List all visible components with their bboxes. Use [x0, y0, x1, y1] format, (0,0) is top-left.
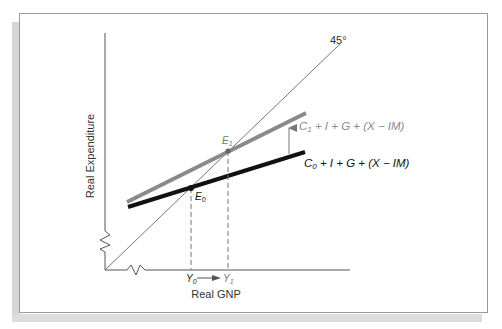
keynesian-cross-diagram: 45° C1 + I + G + (X − IM) C0 + I + G + (…	[0, 0, 502, 329]
curve-c0-label: C0 + I + G + (X − IM)	[304, 157, 410, 171]
x-axis-label: Real GNP	[191, 288, 241, 300]
y0-label: Y0	[186, 273, 197, 285]
e0-label: E0	[195, 191, 206, 203]
curve-c1-line	[127, 113, 306, 202]
e1-label: E1	[222, 135, 233, 147]
y1-label: Y1	[223, 273, 234, 285]
point-e0	[188, 185, 194, 191]
y0-to-y1-arrowhead	[212, 275, 221, 281]
curve-c0-line	[128, 152, 305, 207]
point-e1	[225, 148, 230, 153]
curve-c1-label: C1 + I + G + (X − IM)	[299, 120, 405, 134]
forty-five-label: 45°	[330, 34, 347, 46]
y-axis	[100, 33, 110, 270]
y-axis-label: Real Expenditure	[84, 114, 96, 198]
